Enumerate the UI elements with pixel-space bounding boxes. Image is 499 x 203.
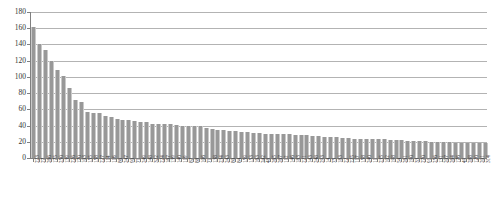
y-axis-tick-label: 140 (0, 40, 26, 48)
bar (67, 88, 72, 158)
bar (126, 120, 131, 158)
bar (233, 131, 238, 158)
bar (97, 113, 102, 158)
bar (85, 112, 90, 158)
bar (221, 130, 226, 158)
y-axis-tick-label: 20 (0, 138, 26, 146)
bar (144, 122, 149, 158)
y-axis-tick-label: 40 (0, 122, 26, 130)
bar (55, 70, 60, 158)
y-axis-tick-label: 100 (0, 73, 26, 81)
y-axis: 180160140120100806040200 (0, 0, 28, 203)
y-axis-tick-label: 60 (0, 105, 26, 113)
y-axis-tick-label: 80 (0, 89, 26, 97)
y-axis-tick-label: 160 (0, 24, 26, 32)
bar (150, 124, 155, 158)
bar (227, 131, 232, 158)
bar (192, 126, 197, 158)
bar-series (30, 12, 487, 158)
bar (156, 124, 161, 158)
bar (204, 128, 209, 158)
bar (174, 125, 179, 158)
bar-chart: 180160140120100806040200 223272661752501… (0, 0, 499, 203)
bar (103, 116, 108, 158)
bar (49, 61, 54, 158)
bar (37, 44, 42, 158)
bar (180, 126, 185, 158)
bar (210, 129, 215, 158)
bar (31, 27, 36, 158)
bar (162, 124, 167, 158)
y-axis-tick-label: 180 (0, 8, 26, 16)
bar (91, 113, 96, 158)
y-axis-tick-label: 0 (0, 154, 26, 162)
bar (120, 120, 125, 158)
bar (215, 130, 220, 158)
bar (115, 119, 120, 158)
bar (132, 121, 137, 158)
y-axis-tick-label: 120 (0, 57, 26, 65)
bar (328, 137, 333, 158)
bar (168, 124, 173, 158)
bar (138, 122, 143, 159)
bar (73, 100, 78, 158)
bar (61, 76, 66, 158)
bar (186, 126, 191, 158)
bar (109, 117, 114, 158)
bar (198, 126, 203, 158)
x-axis-tick-label: 314 (486, 155, 491, 163)
x-axis: 2232726617525013922617010315515822711411… (30, 159, 487, 203)
bar (79, 102, 84, 158)
bar (43, 50, 48, 158)
